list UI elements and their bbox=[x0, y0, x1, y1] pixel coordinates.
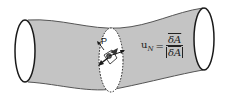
formula-denominator: δA bbox=[166, 47, 183, 58]
formula-subscript: N bbox=[147, 45, 153, 53]
point-p-label: P bbox=[101, 36, 107, 46]
stream-tube-diagram bbox=[0, 0, 228, 97]
left-end-ellipse bbox=[15, 20, 35, 82]
right-end-ellipse bbox=[194, 8, 214, 70]
formula-equals: = bbox=[156, 41, 164, 52]
formula-fraction: δA δA bbox=[166, 34, 183, 58]
formula-numerator: δA bbox=[166, 34, 183, 46]
unit-normal-formula: uN = δA δA bbox=[141, 34, 183, 58]
formula-lhs: uN bbox=[141, 39, 154, 53]
